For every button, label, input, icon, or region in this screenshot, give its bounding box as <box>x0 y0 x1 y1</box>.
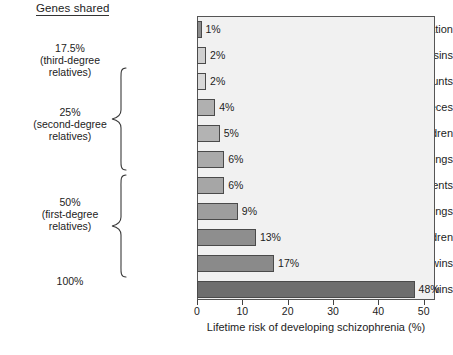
chart-figure: Genes shared 17.5% (third-degree relativ… <box>0 0 453 355</box>
bar-value-label: 6% <box>228 179 243 191</box>
brace-first-degree <box>108 173 130 279</box>
bar-nephews-nieces <box>197 99 215 116</box>
bar-general-population <box>197 21 202 38</box>
x-tick-label: 10 <box>236 305 248 317</box>
bar-value-label: 48% <box>419 283 440 295</box>
bar-value-label: 2% <box>210 49 225 61</box>
x-tick-label: 30 <box>327 305 339 317</box>
bar-value-label: 5% <box>224 127 239 139</box>
bar-first-cousins <box>197 47 206 64</box>
bar-value-label: 13% <box>260 231 281 243</box>
group-line: 17.5% <box>0 42 140 54</box>
bar-identical-twins <box>197 281 415 298</box>
bar-grandchildren <box>197 125 220 142</box>
x-tick-label: 0 <box>194 305 200 317</box>
bar-half-siblings <box>197 151 224 168</box>
brace-second-degree <box>108 66 130 172</box>
bar-value-label: 9% <box>242 205 257 217</box>
bar-value-label: 2% <box>210 75 225 87</box>
x-tick-label: 50 <box>418 305 430 317</box>
bar-parents <box>197 177 224 194</box>
group-line: (third-degree <box>0 54 140 66</box>
x-tick-label: 20 <box>282 305 294 317</box>
bar-fraternal-twins <box>197 255 274 272</box>
genes-shared-heading: Genes shared <box>36 2 109 16</box>
x-axis-title: Lifetime risk of developing schizophreni… <box>197 321 435 333</box>
bar-value-label: 6% <box>228 153 243 165</box>
bar-children <box>197 229 256 246</box>
bar-siblings <box>197 203 238 220</box>
bar-value-label: 17% <box>278 257 299 269</box>
x-tick-label: 40 <box>372 305 384 317</box>
bar-value-label: 1% <box>206 23 221 35</box>
bar-value-label: 4% <box>219 101 234 113</box>
bar-uncles-aunts <box>197 73 206 90</box>
